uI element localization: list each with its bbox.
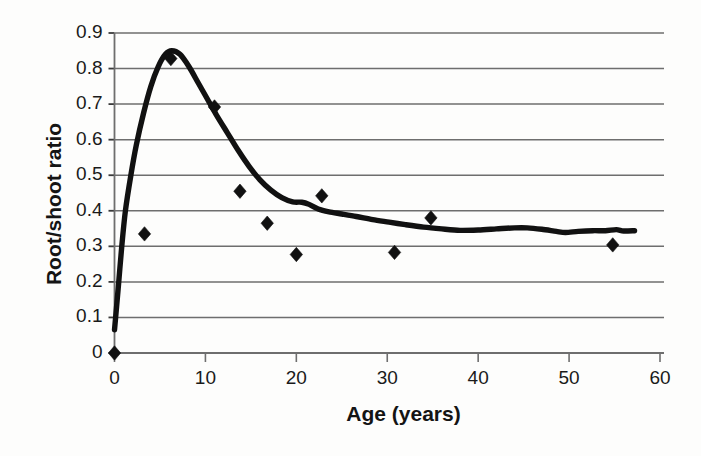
data-point-marker: [607, 238, 619, 252]
y-tick-label: 0.8: [43, 57, 103, 79]
data-point-marker: [108, 346, 120, 360]
y-tick-label: 0.4: [43, 199, 103, 221]
y-tick-label: 0.2: [43, 270, 103, 292]
data-point-marker: [138, 227, 150, 241]
chart-figure: Root/shoot ratio Age (years) 00.10.20.30…: [0, 0, 701, 456]
y-tick-label: 0.7: [43, 92, 103, 114]
axis-lines-group: [111, 33, 665, 353]
x-tick-label: 10: [185, 367, 225, 389]
data-point-markers-group: [108, 51, 619, 360]
y-tick-label: 0.9: [43, 21, 103, 43]
x-tick-label: 0: [95, 367, 135, 389]
y-tick-label: 0: [43, 341, 103, 363]
y-tick-label: 0.1: [43, 305, 103, 327]
data-point-marker: [290, 247, 302, 261]
x-tick-label: 50: [549, 367, 589, 389]
data-point-marker: [234, 184, 246, 198]
data-point-marker: [388, 245, 400, 259]
x-tick-label: 60: [640, 367, 680, 389]
data-point-marker: [425, 211, 437, 225]
modelled-curve-line: [115, 51, 635, 330]
y-tick-label: 0.5: [43, 163, 103, 185]
data-point-marker: [261, 216, 273, 230]
data-point-marker: [316, 189, 328, 203]
x-tick-label: 40: [458, 367, 498, 389]
x-tick-label: 20: [276, 367, 316, 389]
y-tick-label: 0.3: [43, 234, 103, 256]
x-tick-label: 30: [367, 367, 407, 389]
x-tick-marks-group: [115, 353, 661, 362]
y-tick-label: 0.6: [43, 128, 103, 150]
